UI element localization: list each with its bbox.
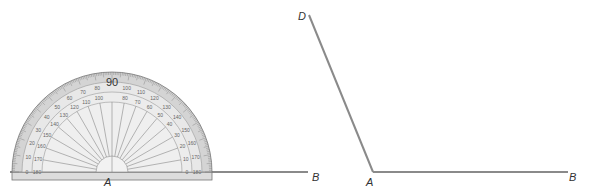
protractor-scale-number: 130 — [162, 104, 171, 110]
protractor-scale-number: 140 — [173, 114, 182, 120]
protractor-scale-number: 150 — [43, 132, 52, 138]
protractor-scale-number: 50 — [157, 112, 163, 118]
label-b-right: B — [569, 171, 576, 183]
protractor-scale-number: 80 — [122, 95, 128, 101]
protractor-scale-number: 70 — [135, 99, 141, 105]
protractor-scale-number: 10 — [26, 154, 32, 160]
protractor: 90 0180101702016030150401405013060120701… — [12, 72, 212, 180]
protractor-scale-number: 130 — [60, 112, 69, 118]
protractor-scale-number: 120 — [150, 95, 159, 101]
protractor-scale-number: 0 — [186, 169, 189, 175]
label-a-right: A — [365, 176, 373, 188]
protractor-scale-number: 170 — [192, 154, 201, 160]
label-a-left: A — [103, 176, 111, 188]
protractor-scale-number: 180 — [193, 169, 202, 175]
protractor-scale-number: 40 — [44, 114, 50, 120]
protractor-scale-number: 180 — [33, 169, 42, 175]
protractor-scale-number: 110 — [82, 99, 90, 105]
protractor-scale-number: 20 — [180, 143, 186, 149]
protractor-scale-number: 60 — [67, 95, 73, 101]
protractor-scale-number: 40 — [167, 121, 173, 127]
protractor-scale-number: 20 — [29, 140, 35, 146]
protractor-scale-number: 110 — [137, 89, 145, 95]
protractor-scale-number: 160 — [188, 140, 197, 146]
label-b-left: B — [312, 171, 319, 183]
protractor-center-label: 90 — [106, 76, 118, 88]
label-d: D — [298, 10, 306, 22]
protractor-scale-number: 30 — [174, 132, 180, 138]
protractor-scale-number: 170 — [34, 156, 43, 162]
ray-ad — [309, 15, 373, 172]
protractor-scale-number: 120 — [70, 104, 79, 110]
protractor-scale-number: 100 — [95, 95, 104, 101]
protractor-scale-number: 150 — [181, 127, 190, 133]
protractor-scale-number: 100 — [123, 85, 132, 91]
protractor-scale-number: 160 — [37, 143, 46, 149]
protractor-scale-number: 140 — [50, 121, 59, 127]
protractor-scale-number: 10 — [183, 156, 189, 162]
protractor-scale-number: 80 — [94, 85, 100, 91]
protractor-scale-number: 0 — [26, 169, 29, 175]
protractor-scale-number: 30 — [36, 127, 42, 133]
protractor-scale-number: 50 — [55, 104, 61, 110]
protractor-scale-number: 60 — [147, 104, 153, 110]
protractor-scale-number: 70 — [80, 89, 86, 95]
geometry-figure: 90 0180101702016030150401405013060120701… — [0, 0, 589, 193]
